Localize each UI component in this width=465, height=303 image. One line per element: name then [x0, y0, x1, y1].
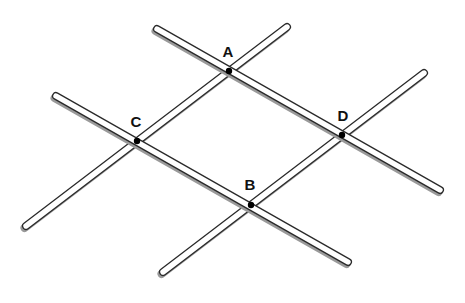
- label-a: A: [223, 43, 234, 60]
- point-c-dot: [134, 138, 140, 144]
- rod-ca: [25, 27, 288, 228]
- point-a-dot: [226, 68, 232, 74]
- point-d-dot: [339, 132, 345, 138]
- label-d: D: [338, 107, 349, 124]
- rods: [25, 27, 441, 274]
- label-b: B: [245, 176, 256, 193]
- rod-ca-body: [26, 27, 287, 226]
- rod-cb-body: [56, 96, 348, 262]
- label-c: C: [131, 113, 142, 130]
- parallelogram-sticks-diagram: A C D B: [0, 0, 465, 303]
- intersection-points: [134, 68, 345, 208]
- point-b-dot: [248, 202, 254, 208]
